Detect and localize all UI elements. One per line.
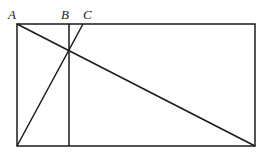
diagonal-a-to-bottom-right [17,24,255,146]
geometry-diagram: A B C [0,0,267,157]
label-b: B [61,7,69,22]
label-a: A [7,7,16,22]
label-c: C [83,7,92,22]
line-bottom-left-to-c [17,24,83,146]
